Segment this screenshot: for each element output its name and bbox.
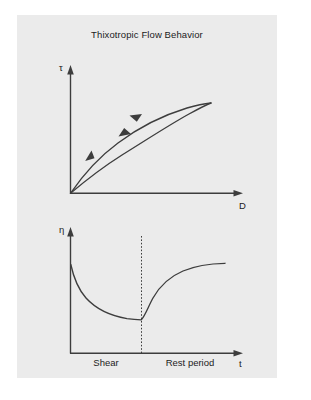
rest-region-label: Rest period [166,357,215,368]
shear-region-label: Shear [93,357,118,368]
tau-up-ramp-direction-arrow-icon [85,151,94,162]
time-axis-arrow-icon [234,350,244,357]
shear-rate-axis-arrow-icon [234,190,244,197]
eta-axis-label: η [59,224,64,235]
tau-up-curve [71,103,212,193]
eta-axis-arrow-icon [67,227,74,237]
figure-plot-area: τ D η t Shear Rest period [17,15,277,378]
tau-down-curve [71,103,212,193]
tau-axis-arrow-icon [67,65,74,75]
tau-axis-label: τ [59,62,63,73]
chart-viscosity-vs-time: η t Shear Rest period [59,224,243,369]
figure-panel: Thixotropic Flow Behavior τ D [17,15,277,378]
chart-shear-stress-vs-shear-rate: τ D [59,62,246,211]
tau-loop-top-direction-arrow-icon [130,114,143,122]
time-axis-label: t [239,358,242,369]
figure-caption [3,388,303,398]
shear-rate-axis-label: D [239,200,246,211]
eta-curve [71,263,225,320]
